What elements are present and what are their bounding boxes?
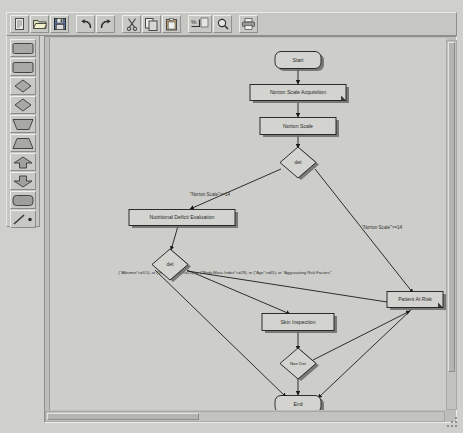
new-document-icon [14,18,26,31]
copy-pages-icon [145,18,158,31]
main-toolbar: % [6,12,457,36]
trapezoid-shape-icon [12,137,34,150]
node-start[interactable]: Start [275,52,324,72]
edge-label-norton-high: "Norton Scale">=14 [362,225,403,230]
node-norton-scale[interactable]: Norton Scale [260,118,339,138]
up-arrow-shape-icon [12,156,34,169]
svg-text:Nutritional Deficit Evaluation: Nutritional Deficit Evaluation [150,214,215,220]
open-file-button[interactable] [30,15,49,33]
rectangle-shape-icon [12,42,34,55]
node-skin-inspection[interactable]: Skin Inspection [262,314,337,334]
save-button[interactable] [50,15,69,33]
palette-rounded-rectangle[interactable] [10,191,36,209]
zoom-to-fit-button[interactable]: % [188,15,212,33]
save-disk-icon [54,18,66,30]
edge-label-norton-low: "Norton Scale"<=14 [190,192,231,197]
redo-arrow-icon [99,19,113,30]
print-button[interactable] [239,15,258,33]
palette-line-tool[interactable] [10,210,36,228]
palette-diamond-1[interactable] [10,77,36,95]
edge-det1-to-nde [190,169,281,209]
svg-text:End: End [293,401,302,407]
node-norton-scale-acquisition[interactable]: Norton Scale Acquisition [250,85,349,104]
palette-up-arrow[interactable] [10,153,36,171]
scissors-icon [126,18,138,31]
printer-icon [242,18,255,30]
open-folder-icon [33,18,47,30]
magnifier-icon [217,18,229,30]
zoom-fit-icon: % [191,17,209,31]
rectangle-shape-icon [12,61,34,74]
horizontal-scrollbar[interactable] [45,411,445,422]
svg-text:%: % [191,19,197,25]
clipboard-icon [166,18,178,31]
palette-rectangle-2[interactable] [10,58,36,76]
copy-button[interactable] [142,15,161,33]
svg-text:det: det [167,261,175,267]
paste-button[interactable] [162,15,181,33]
node-det-2[interactable]: det [152,249,191,282]
canvas-frame: "Norton Scale"<=14 "Norton Scale">=14 ("… [44,36,457,423]
edge-det2-to-skin [187,270,290,314]
palette-down-arrow[interactable] [10,172,36,190]
palette-trapezoid-1[interactable] [10,115,36,133]
svg-text:Skin Inspection: Skin Inspection [280,319,315,325]
undo-arrow-icon [79,19,93,30]
diamond-shape-icon [12,98,34,112]
undo-button[interactable] [76,15,95,33]
application-window: % [0,0,463,433]
shape-palette [6,36,40,227]
zoom-button[interactable] [213,15,232,33]
node-non-det[interactable]: Non Det [280,348,319,381]
node-patient-at-risk[interactable]: Patient At Risk [387,292,446,311]
palette-trapezoid-2[interactable] [10,134,36,152]
svg-text:Norton Scale: Norton Scale [283,123,313,129]
svg-text:Norton Scale Acquisition: Norton Scale Acquisition [270,89,326,95]
line-and-point-icon [12,213,34,226]
cut-button[interactable] [122,15,141,33]
svg-text:det: det [295,159,303,165]
node-end[interactable]: End [275,396,324,411]
edge-det2-left-to-end [155,270,286,397]
redo-button[interactable] [96,15,115,33]
edge-det2-to-risk [187,271,400,304]
edge-label-nutrition-condition: ("Albumin"<=3.5), or ("Hemoglobin"<=11),… [119,270,332,275]
palette-diamond-2[interactable] [10,96,36,114]
vertical-scrollbar[interactable] [446,40,457,410]
down-arrow-shape-icon [12,175,34,188]
vertical-scrollbar-thumb[interactable] [448,42,455,372]
edge-nde-to-det2 [171,226,178,250]
flowchart-canvas[interactable]: "Norton Scale"<=14 "Norton Scale">=14 ("… [49,38,447,410]
rounded-rectangle-shape-icon [12,194,34,207]
svg-text:Start: Start [293,57,305,63]
new-document-button[interactable] [10,15,29,33]
palette-rectangle-1[interactable] [10,39,36,57]
trapezoid-shape-icon [12,118,34,131]
svg-text:Patient At Risk: Patient At Risk [398,296,432,302]
svg-text:Non Det: Non Det [290,361,307,366]
node-nutritional-deficit-evaluation[interactable]: Nutritional Deficit Evaluation [129,210,238,229]
resize-grip[interactable] [447,417,459,429]
horizontal-scrollbar-thumb[interactable] [47,413,199,420]
diamond-shape-icon [12,79,34,93]
node-det-1[interactable]: det [280,147,319,180]
